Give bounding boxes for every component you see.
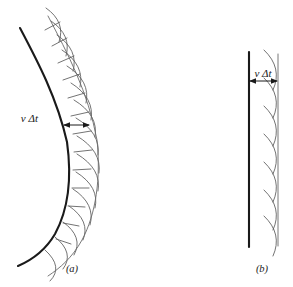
panel-a-vdt-label-text: v Δt [21,112,39,124]
arrow-head-right [83,122,90,128]
panel-a: v Δt (a) [18,8,99,281]
wavelet-arc [76,172,96,208]
panel-a-distance-arrow [63,122,90,128]
wavelet-radius-tick [73,169,91,170]
panel-b-caption: (b) [256,263,269,275]
wavelet-arc [264,216,276,256]
panel-a-wavelets [45,8,99,281]
wavelet-radius-tick [74,150,92,152]
wavelet-arc [264,162,276,202]
panel-a-vdt-label: v Δt [21,112,39,124]
panel-b: v Δt (b) [249,50,278,275]
panel-a-original-wavefront [18,28,69,266]
wavelet-arc [77,154,99,191]
figure-container: v Δt (a) [0,0,293,287]
wavelet-arc [264,106,276,146]
panel-b-distance-arrow [249,78,278,84]
wavelet-arc [45,250,56,281]
wavelet-radius-tick [71,112,89,116]
wavelet-arc [264,134,276,174]
panel-a-caption: (a) [66,263,79,275]
wavelet-radius-tick [73,131,91,134]
wavelet-arc [71,83,92,120]
huygens-construction-figure: v Δt (a) [0,0,293,287]
wavelet-arc [264,190,276,230]
arrow-head-right [271,78,278,84]
wavelet-radius-tick [68,93,85,98]
wavelet-arc [69,206,85,240]
wavelet-radius-tick [56,239,71,244]
wavelet-arc [264,78,276,118]
wavelet-arc [77,136,99,173]
wavelet-radius-tick [63,223,79,226]
panel-b-vdt-label-text: v Δt [254,67,272,79]
panel-b-vdt-label: v Δt [254,67,272,79]
